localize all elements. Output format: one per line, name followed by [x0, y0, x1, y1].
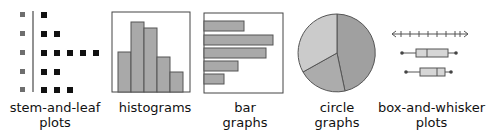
box-whisker-icon: [380, 0, 490, 95]
bar-graph-icon: [195, 0, 295, 100]
label-line2: plots: [0, 115, 110, 130]
circle-graph-figure: circle graphs: [285, 0, 385, 131]
label-line1: box-and-whisker: [374, 100, 489, 115]
label-line1: stem-and-leaf: [0, 100, 110, 115]
box-whisker-label: box-and-whisker plots: [374, 100, 489, 130]
stem-and-leaf-label: stem-and-leaf plots: [0, 100, 110, 130]
bar-graph-figure: bar graphs: [195, 0, 295, 131]
label-line2: plots: [374, 115, 489, 130]
box-whisker-figure: box-and-whisker plots: [380, 0, 490, 131]
circle-graph-icon: [285, 0, 385, 100]
stem-and-leaf-figure: stem-and-leaf plots: [0, 0, 110, 131]
stem-and-leaf-icon: [0, 0, 110, 95]
histogram-icon: [100, 0, 210, 100]
